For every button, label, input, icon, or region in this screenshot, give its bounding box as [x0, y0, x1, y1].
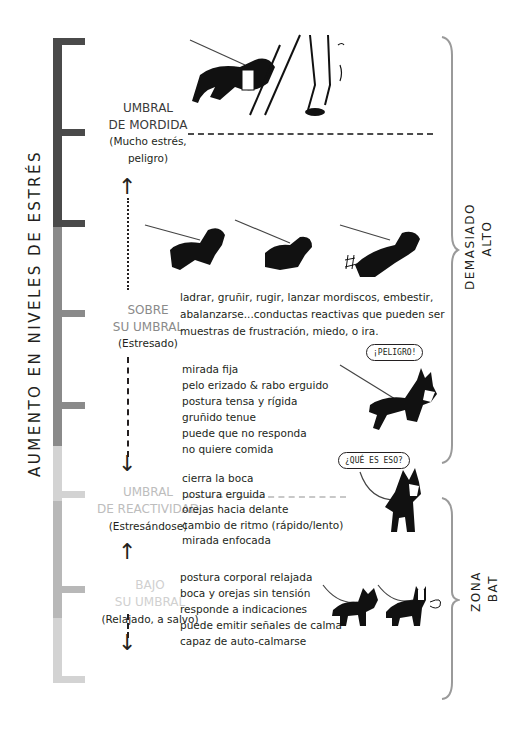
reactivity-signs: cierra la boca postura erguida orejas ha…: [182, 471, 343, 549]
bracket-label-line: ALTO: [479, 203, 496, 290]
description-line: abalanzarse...conductas reactivas que pu…: [180, 306, 445, 323]
dog-biting-illustration: [180, 25, 360, 120]
sign-item: cambio de ritmo (rápido/lento): [182, 518, 343, 534]
over-threshold-signs: mirada fija pelo erizado & rabo erguido …: [182, 361, 329, 457]
arrow-up-icon: ↑: [118, 543, 136, 561]
sign-item: no quiere comida: [182, 441, 329, 457]
dashed-line: [127, 357, 129, 457]
dog-focused-illustration: [355, 462, 445, 537]
description-line: muestras de frustración, miedo, o ira.: [180, 323, 445, 340]
brace-bat-zone: [440, 496, 460, 701]
bracket-label-line: BAT: [485, 571, 502, 612]
bar-segment-over: [53, 222, 62, 446]
zone-subtitle: peligro): [88, 149, 208, 167]
sign-item: postura erguida: [182, 487, 343, 503]
sign-item: orejas hacia delante: [182, 502, 343, 518]
bar-tick: [53, 38, 85, 45]
bar-segment-under-mid: [53, 501, 62, 618]
dashdot-line: [127, 198, 129, 290]
speech-bubble-danger: ¡PELIGRO!: [366, 344, 423, 361]
sign-item: capaz de auto-calmarse: [180, 633, 342, 649]
arrow-up-icon: ↑: [118, 178, 136, 196]
arrow-down-icon: ↓: [118, 634, 136, 652]
brace-too-high: [440, 35, 460, 465]
sign-item: postura tensa y rígida: [182, 393, 329, 409]
arrow-down-icon: ↓: [118, 455, 136, 473]
bite-threshold-line: [188, 133, 433, 135]
bracket-label-line: ZONA: [468, 571, 485, 612]
sign-item: pelo erizado & rabo erguido: [182, 377, 329, 393]
bracket-label-bat-zone: ZONA BAT: [468, 571, 502, 612]
bar-tick: [53, 310, 85, 317]
axis-label: AUMENTO EN NIVELES DE ESTRÉS: [26, 150, 44, 477]
bar-segment-under-light: [53, 618, 62, 680]
bar-tick: [53, 129, 85, 136]
bar-tick: [53, 676, 85, 683]
sign-item: cierra la boca: [182, 471, 343, 487]
sign-item: puede que no responda: [182, 425, 329, 441]
dogs-relaxed-illustration: [318, 580, 458, 630]
sign-item: gruñido tenue: [182, 409, 329, 425]
bracket-label-line: DEMASIADO: [462, 203, 479, 290]
dogs-barking-illustration: [140, 215, 440, 285]
zone-subtitle: (Mucho estrés,: [88, 134, 208, 149]
over-threshold-description: ladrar, gruñir, rugir, lanzar mordiscos,…: [180, 289, 445, 340]
bracket-label-too-high: DEMASIADO ALTO: [462, 203, 496, 290]
description-line: ladrar, gruñir, rugir, lanzar mordiscos,…: [180, 289, 445, 306]
sign-item: mirada fija: [182, 361, 329, 377]
bar-tick: [53, 220, 85, 227]
sign-item: mirada enfocada: [182, 533, 343, 549]
bar-tick: [53, 402, 85, 409]
dog-alert-illustration: [335, 360, 445, 435]
